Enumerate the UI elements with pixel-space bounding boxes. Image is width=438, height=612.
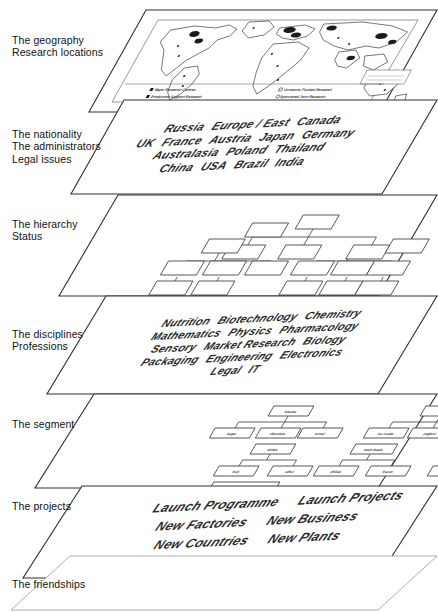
caption-nationality: The nationality The administrators Legal… [12,128,101,165]
caption-hierarchy: The hierarchy Status [12,218,78,243]
layer-plane-hierarchy [58,193,438,300]
layer-plane-segment [34,392,438,492]
caption-geography: The geography Research locations [12,34,103,59]
layer-hierarchy [58,193,438,300]
caption-projects: The projects [12,500,71,512]
caption-friendships: The friendships [12,578,85,590]
caption-segment: The segment [12,418,74,430]
layer-segment: snacks sugar chocolate cereal dairy ice [34,392,438,492]
map-legend-item-0: Major Research Centres [154,88,197,92]
caption-disciplines: The disciplines Professions [12,328,83,353]
world-map-graphic: Major Research Centres Production Suppor… [108,16,426,110]
map-legend-item-2: University Funded Research [283,88,334,92]
